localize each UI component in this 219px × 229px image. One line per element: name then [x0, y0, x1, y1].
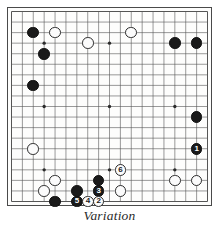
figure-caption: Variation: [0, 208, 219, 224]
stone-move-number: 6: [118, 166, 122, 174]
white-stone-p4[interactable]: [169, 175, 181, 187]
black-stone-c12[interactable]: [27, 80, 39, 92]
black-stone-f3[interactable]: [71, 185, 83, 197]
white-stone-j3[interactable]: [115, 185, 127, 197]
stone-move-number: 5: [75, 197, 79, 205]
black-stone-d2[interactable]: [49, 196, 61, 208]
black-stone-q16[interactable]: [169, 37, 181, 49]
go-board-surface: 163542: [8, 8, 211, 205]
black-stone-h3-move3[interactable]: 3: [93, 185, 105, 197]
black-stone-f2-move5[interactable]: 5: [71, 196, 83, 208]
black-stone-r9[interactable]: [191, 111, 203, 123]
white-stone-h2-move2[interactable]: 2: [93, 196, 105, 208]
go-board[interactable]: 163542: [7, 7, 212, 206]
white-stone-h5-move6[interactable]: 6: [115, 164, 127, 176]
black-stone-r7-move1[interactable]: 1: [191, 143, 203, 155]
white-stone-d4[interactable]: [49, 175, 61, 187]
white-stone-e16[interactable]: [49, 27, 61, 39]
black-stone-c14[interactable]: [38, 48, 50, 60]
stone-move-number: 2: [97, 197, 101, 205]
stone-move-number: 1: [195, 145, 199, 153]
stone-move-number: 3: [97, 187, 101, 195]
white-stone-g2-move4[interactable]: 4: [82, 196, 94, 208]
white-stone-c7[interactable]: [27, 143, 39, 155]
white-stone-g16[interactable]: [82, 37, 94, 49]
go-board-grid: [8, 8, 211, 205]
go-variation-figure: 163542 Variation: [0, 0, 219, 229]
stone-move-number: 4: [86, 197, 90, 205]
white-stone-c3[interactable]: [38, 185, 50, 197]
